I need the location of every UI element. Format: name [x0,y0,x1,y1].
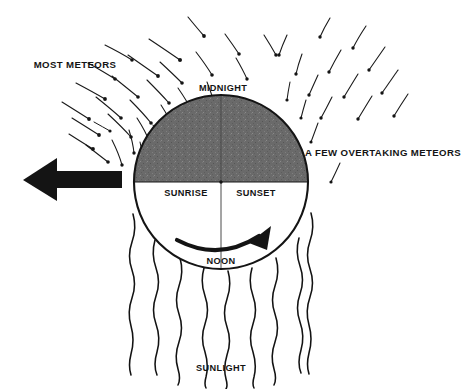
sunlight-ray [176,258,182,385]
meteor-diagram: MOST METEORS A FEW OVERTAKING METEORS MI… [0,0,468,389]
sunlight-ray [297,238,303,373]
label-most-meteors: MOST METEORS [34,59,117,70]
label-noon: NOON [207,256,236,266]
sunlight-ray [307,213,313,374]
earth-center-dot [219,180,222,183]
sunlight-ray [153,240,159,375]
label-sunlight: SUNLIGHT [196,363,246,373]
earth-orbital-motion-arrow [23,158,122,201]
label-midnight: MIDNIGHT [199,83,247,93]
label-sunset: SUNSET [236,188,275,198]
earth-globe [128,88,314,269]
sunlight-ray [129,214,135,375]
label-sunrise: SUNRISE [164,188,207,198]
sunlight-ray [250,268,255,388]
sunlight-ray [272,258,278,385]
diagram-canvas: MOST METEORS A FEW OVERTAKING METEORS MI… [0,0,468,389]
label-overtaking-meteors: A FEW OVERTAKING METEORS [305,147,461,158]
